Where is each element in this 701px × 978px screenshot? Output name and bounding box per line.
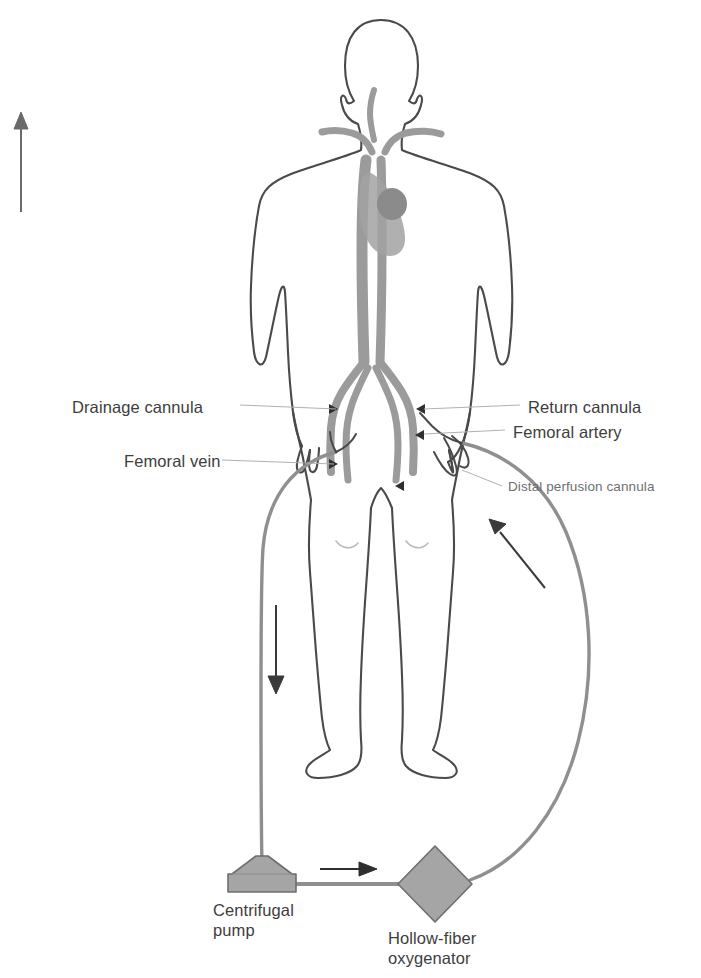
label-hollow-fiber-oxygenator-line1: Hollow-fiber	[388, 928, 476, 948]
label-hollow-fiber-oxygenator-line2: oxygenator	[388, 948, 476, 968]
label-hollow-fiber-oxygenator: Hollow-fiber oxygenator	[388, 928, 476, 968]
label-femoral-vein: Femoral vein	[124, 452, 221, 471]
hollow-fiber-oxygenator	[398, 846, 472, 922]
label-centrifugal-pump-line1: Centrifugal	[213, 900, 294, 920]
pump-to-oxygenator-arrow	[320, 862, 377, 876]
return-tubing	[462, 443, 589, 880]
label-centrifugal-pump: Centrifugal pump	[213, 900, 294, 940]
drainage-tubing	[261, 452, 336, 866]
label-distal-perfusion-cannula: Distal perfusion cannula	[508, 479, 654, 494]
label-femoral-artery: Femoral artery	[513, 423, 622, 442]
label-drainage-cannula: Drainage cannula	[72, 398, 203, 417]
drainage-flow-arrow	[268, 605, 284, 694]
return-flow-arrow	[489, 519, 545, 588]
centrifugal-pump	[228, 856, 296, 892]
systemic-flow-arrow	[14, 112, 28, 212]
iliac-femoral-vessels	[330, 362, 414, 480]
ecmo-diagram-canvas: Drainage cannula Femoral vein Return can…	[0, 0, 701, 978]
label-centrifugal-pump-line2: pump	[213, 920, 294, 940]
label-return-cannula: Return cannula	[528, 398, 641, 417]
knee-creases	[336, 541, 428, 548]
patient-body-outline	[251, 20, 513, 778]
